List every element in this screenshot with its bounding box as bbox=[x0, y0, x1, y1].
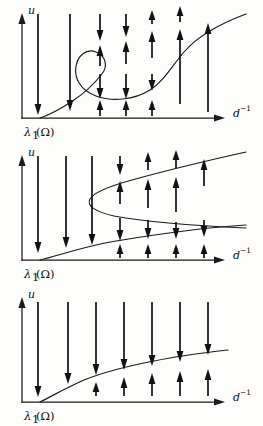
y-axis-label: u bbox=[28, 4, 35, 17]
arrow-up bbox=[121, 377, 128, 396]
bifurcation-point-label: λ 1 (Ω) bbox=[23, 409, 55, 426]
arrow-up bbox=[145, 179, 152, 208]
svg-text:(Ω): (Ω) bbox=[36, 267, 55, 281]
arrow-down bbox=[93, 302, 100, 375]
y-axis bbox=[18, 155, 25, 260]
bifurcation-point-label: λ 1 (Ω) bbox=[23, 125, 55, 142]
panel-turning-point-detached-fold: u d −1 λ 1 (Ω) bbox=[0, 142, 263, 284]
arrow-up bbox=[173, 244, 180, 258]
svg-text:(Ω): (Ω) bbox=[36, 125, 55, 139]
panel-s-shaped-three-branch: u d −1 λ 1 (Ω) bbox=[0, 0, 263, 142]
arrow-up bbox=[123, 41, 130, 64]
arrow-down bbox=[149, 302, 156, 366]
panel-monotone-single-branch: u d −1 λ 1 (Ω) bbox=[0, 284, 263, 426]
arrow-up bbox=[177, 6, 184, 22]
arrow-down bbox=[117, 156, 124, 175]
bifurcation-figure: u d −1 λ 1 (Ω) bbox=[0, 0, 263, 426]
arrow-down bbox=[149, 74, 156, 91]
arrow-up bbox=[145, 244, 152, 258]
arrow-down bbox=[123, 14, 130, 37]
y-axis bbox=[18, 13, 25, 118]
svg-text:d: d bbox=[233, 107, 240, 120]
arrow-up bbox=[97, 45, 104, 66]
arrow-up bbox=[149, 373, 156, 396]
svg-text:(Ω): (Ω) bbox=[36, 409, 55, 423]
arrow-down bbox=[97, 74, 104, 99]
arrow-up bbox=[201, 244, 208, 258]
arrow-up bbox=[93, 382, 100, 396]
x-axis bbox=[22, 114, 225, 121]
arrow-up bbox=[205, 369, 212, 396]
arrow-up bbox=[145, 152, 152, 170]
x-axis-label: d −1 bbox=[233, 104, 251, 120]
arrow-down bbox=[121, 302, 128, 370]
arrow-down bbox=[65, 302, 72, 384]
svg-text:−1: −1 bbox=[240, 104, 251, 113]
arrow-up bbox=[149, 10, 156, 24]
arrow-down bbox=[63, 156, 70, 248]
x-axis bbox=[22, 398, 225, 405]
arrow-down bbox=[123, 74, 130, 99]
arrow-up bbox=[201, 159, 208, 186]
arrow-up bbox=[149, 100, 156, 116]
arrow-up bbox=[97, 100, 104, 116]
arrow-up bbox=[177, 371, 184, 396]
x-axis bbox=[22, 256, 225, 263]
svg-text:−1: −1 bbox=[240, 246, 251, 255]
arrow-down bbox=[35, 14, 42, 115]
arrow-down bbox=[177, 302, 184, 362]
arrow-down bbox=[117, 218, 124, 241]
bifurcation-point-label: λ 1 (Ω) bbox=[23, 267, 55, 284]
arrow-down bbox=[97, 14, 104, 41]
arrow-up bbox=[173, 177, 180, 212]
arrow-up bbox=[149, 31, 156, 58]
x-axis-label: d −1 bbox=[233, 388, 251, 404]
arrow-down bbox=[67, 14, 74, 111]
svg-text:d: d bbox=[233, 391, 240, 404]
svg-text:λ: λ bbox=[23, 267, 31, 281]
arrow-up bbox=[173, 150, 180, 168]
svg-text:λ: λ bbox=[23, 409, 31, 423]
arrow-up bbox=[205, 23, 212, 112]
direction-field bbox=[35, 150, 208, 258]
arrow-up bbox=[177, 29, 184, 104]
arrow-up bbox=[117, 244, 124, 258]
bifurcation-curve-fold bbox=[89, 152, 246, 228]
y-axis-label: u bbox=[28, 288, 35, 301]
svg-text:λ: λ bbox=[23, 125, 31, 139]
arrow-up bbox=[123, 100, 130, 116]
arrow-down bbox=[35, 302, 42, 397]
direction-field bbox=[35, 302, 212, 397]
arrow-down bbox=[35, 156, 42, 253]
x-axis-label: d −1 bbox=[233, 246, 251, 262]
arrow-down bbox=[205, 302, 212, 355]
y-axis bbox=[18, 297, 25, 402]
arrow-down bbox=[201, 220, 208, 237]
svg-text:d: d bbox=[233, 249, 240, 262]
bifurcation-curve-lower bbox=[40, 225, 246, 260]
arrow-down bbox=[173, 222, 180, 239]
y-axis-label: u bbox=[28, 146, 35, 159]
svg-text:−1: −1 bbox=[240, 388, 251, 397]
